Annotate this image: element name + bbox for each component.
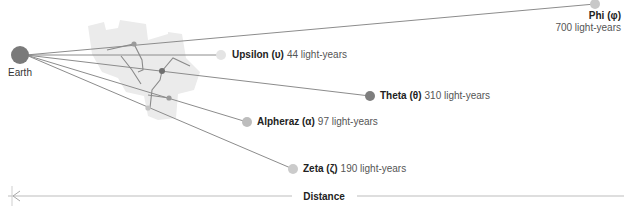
star-dot-icon bbox=[242, 117, 252, 127]
star-name: Alpheraz (α) bbox=[257, 116, 315, 127]
star-label: Theta (θ)310 light-years bbox=[380, 90, 490, 101]
earth-label: Earth bbox=[8, 67, 32, 78]
star-distance: 97 light-years bbox=[318, 116, 378, 127]
star-dot-icon bbox=[216, 50, 226, 60]
axis-title: Distance bbox=[303, 191, 345, 202]
star-dot-icon bbox=[288, 164, 298, 174]
star-distance: 190 light-years bbox=[341, 163, 407, 174]
star-name: Theta (θ) bbox=[380, 90, 422, 101]
sight-line-theta bbox=[26, 55, 370, 96]
star-name: Upsilon (υ) bbox=[232, 49, 284, 60]
sight-lines bbox=[26, 4, 595, 169]
star-label: Upsilon (υ)44 light-years bbox=[232, 49, 347, 60]
star-zeta: Zeta (ζ)190 light-years bbox=[288, 163, 406, 175]
constellation-star-dot bbox=[159, 68, 165, 74]
star-name: Zeta (ζ) bbox=[303, 163, 338, 175]
star-upsilon: Upsilon (υ)44 light-years bbox=[216, 49, 347, 60]
constellation-star-dot bbox=[131, 41, 136, 46]
star-dot-icon bbox=[590, 0, 600, 9]
star-markers: Upsilon (υ)44 light-yearsAlpheraz (α)97 … bbox=[216, 0, 621, 175]
star-distance: 310 light-years bbox=[425, 90, 491, 101]
star-name: Phi (φ) bbox=[589, 10, 621, 21]
star-dot-icon bbox=[365, 91, 375, 101]
earth-origin: Earth bbox=[8, 46, 32, 78]
star-label: Zeta (ζ)190 light-years bbox=[303, 163, 406, 175]
constellation-star-dot bbox=[145, 105, 150, 110]
star-distance: 700 light-years bbox=[555, 22, 621, 33]
constellation-star-dot bbox=[166, 95, 171, 100]
star-alpheraz: Alpheraz (α)97 light-years bbox=[242, 116, 378, 127]
star-label: Alpheraz (α)97 light-years bbox=[257, 116, 378, 127]
distance-axis: Distance bbox=[8, 186, 624, 206]
diagram-canvas: Upsilon (υ)44 light-yearsAlpheraz (α)97 … bbox=[0, 0, 624, 207]
distance-diagram: Upsilon (υ)44 light-yearsAlpheraz (α)97 … bbox=[0, 0, 624, 207]
star-theta: Theta (θ)310 light-years bbox=[365, 90, 490, 101]
star-distance: 44 light-years bbox=[287, 49, 347, 60]
earth-icon bbox=[11, 46, 29, 64]
